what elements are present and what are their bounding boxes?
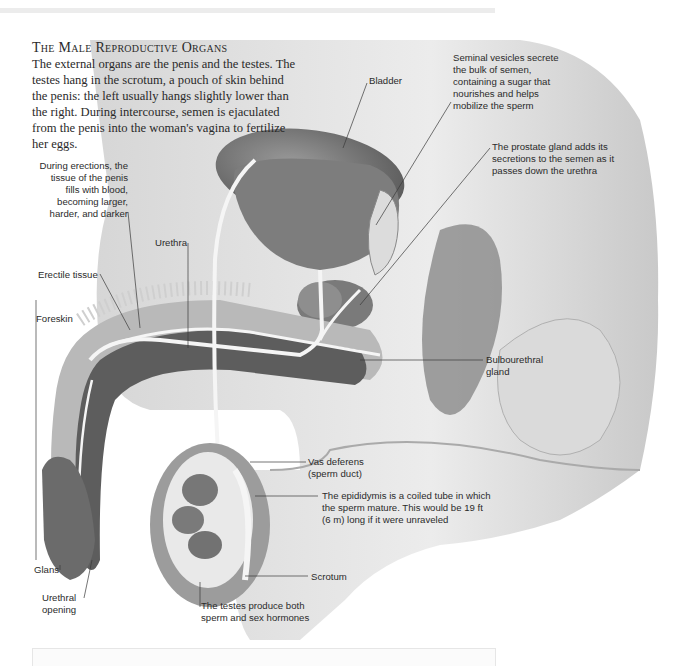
label-glans: Glans: [34, 564, 59, 576]
label-erectile-tissue: Erectile tissue: [38, 269, 98, 281]
label-bulbourethral-gland: Bulbourethral gland: [486, 354, 543, 378]
label-foreskin: Foreskin: [36, 313, 73, 325]
label-testes: The testes produce both sperm and sex ho…: [201, 600, 309, 624]
label-erections: During erections, the tissue of the peni…: [20, 160, 128, 220]
label-vas-deferens: Vas deferens (sperm duct): [308, 456, 364, 480]
label-bladder: Bladder: [369, 75, 402, 87]
label-urethral-opening: Urethral opening: [42, 592, 76, 616]
label-prostate: The prostate gland adds its secretions t…: [492, 141, 614, 177]
intro-paragraph: The external organs are the penis and th…: [32, 56, 302, 152]
label-epididymis: The epididymis is a coiled tube in which…: [322, 490, 491, 526]
label-scrotum: Scrotum: [311, 571, 347, 583]
scrotum-testis-shape: [150, 443, 270, 607]
page-title: The Male Reproductive Organs: [32, 40, 227, 56]
label-urethra: Urethra: [155, 237, 187, 249]
bottom-panel: [32, 648, 496, 666]
label-seminal-vesicles: Seminal vesicles secrete the bulk of sem…: [453, 52, 559, 112]
